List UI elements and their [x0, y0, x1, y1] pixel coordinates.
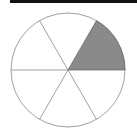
fraction-circle-diagram	[0, 0, 137, 138]
